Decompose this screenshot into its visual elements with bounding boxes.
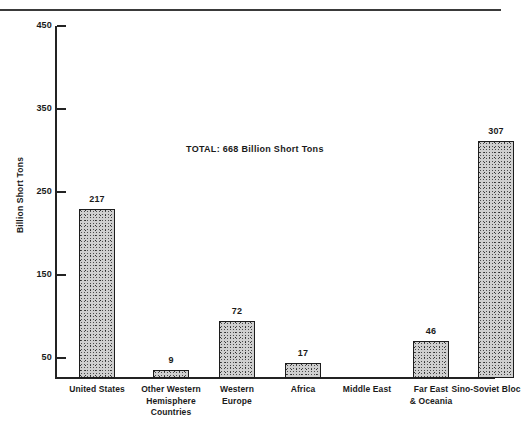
bar-western-europe[interactable] <box>219 321 255 378</box>
y-axis-tick-group-350: 350 <box>0 104 52 113</box>
bar-value-western-europe: 72 <box>232 307 242 316</box>
y-axis-tick-label-450: 450 <box>18 21 52 30</box>
bar-slot-sino-soviet-bloc: 307 <box>462 26 525 378</box>
bar-value-sino-soviet-bloc: 307 <box>488 127 504 136</box>
bar-sino-soviet-bloc[interactable] <box>478 141 514 378</box>
bar-value-far-east-oceania: 46 <box>426 327 436 336</box>
y-axis-tick-group-250: 250 <box>0 187 52 196</box>
bar-africa[interactable] <box>285 363 321 378</box>
bar-slot-far-east-oceania: 46 <box>397 26 465 378</box>
bar-slot-other-western-hemisphere: 9 <box>137 26 205 378</box>
y-axis-tick-group-450: 450 <box>0 21 52 30</box>
y-axis-title: Billion Short Tons <box>15 130 25 260</box>
bar-far-east-oceania[interactable] <box>413 341 449 378</box>
y-axis-tick-group-50: 50 <box>0 353 52 362</box>
bar-value-other-western-hemisphere: 9 <box>168 356 173 365</box>
bar-slot-africa: 17 <box>269 26 337 378</box>
x-axis-label-sino-soviet-bloc: Sino-Soviet Bloc <box>441 384 525 396</box>
bar-value-africa: 17 <box>298 349 308 358</box>
y-axis-tick-label-150: 150 <box>18 270 52 279</box>
bar-slot-western-europe: 72 <box>203 26 271 378</box>
bar-slot-united-states: 217 <box>63 26 131 378</box>
bar-value-united-states: 217 <box>89 195 105 204</box>
bar-other-western-hemisphere[interactable] <box>153 370 189 378</box>
y-axis-tick-label-50: 50 <box>18 353 52 362</box>
y-axis-tick-label-350: 350 <box>18 104 52 113</box>
bar-united-states[interactable] <box>79 209 115 378</box>
y-axis-tick-group-150: 150 <box>0 270 52 279</box>
x-axis-label-united-states: United States <box>55 384 139 396</box>
header-divider-rule <box>0 9 501 11</box>
bar-slot-middle-east <box>333 26 401 378</box>
y-axis-line <box>55 26 57 379</box>
